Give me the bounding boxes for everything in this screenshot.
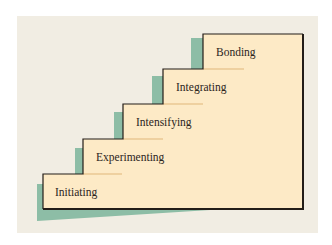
step-label-integrating: Integrating bbox=[176, 82, 226, 94]
step-label-intensifying: Intensifying bbox=[136, 117, 192, 129]
step-label-initiating: Initiating bbox=[55, 187, 97, 199]
step-label-experimenting: Experimenting bbox=[96, 152, 164, 164]
step-label-bonding: Bonding bbox=[216, 47, 256, 59]
